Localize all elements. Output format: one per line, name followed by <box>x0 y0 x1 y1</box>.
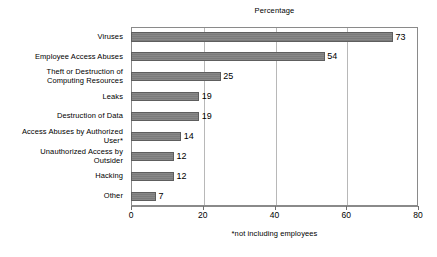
bar[interactable] <box>131 152 174 161</box>
bar-value-label: 14 <box>181 130 194 142</box>
category-label: Other <box>0 191 123 200</box>
bar[interactable] <box>131 92 199 101</box>
bar-row[interactable]: 19 <box>131 107 418 127</box>
category-label-line: Theft or Destruction of <box>47 67 124 76</box>
bar-value-label: 19 <box>199 90 212 102</box>
bar-value-label: 19 <box>199 110 212 122</box>
chart-title: Percentage <box>131 6 418 15</box>
bar-chart-figure: Percentage 73542519191412127 VirusesEmpl… <box>0 0 437 257</box>
category-label: Destruction of Data <box>0 111 123 120</box>
category-label-line: Leaks <box>102 92 123 101</box>
bar-row[interactable]: 7 <box>131 186 418 206</box>
category-label: Leaks <box>0 92 123 101</box>
category-label-line: Viruses <box>97 32 123 41</box>
category-label-line: Access Abuses by Authorized <box>22 127 123 136</box>
chart-footnote: *not including employees <box>131 229 418 238</box>
category-label-line: Computing Resources <box>47 76 123 85</box>
category-label: Theft or Destruction ofComputing Resourc… <box>0 67 123 85</box>
bar-row[interactable]: 54 <box>131 47 418 67</box>
x-tick-label: 20 <box>198 210 207 221</box>
category-label-line: Destruction of Data <box>57 111 123 120</box>
bar-row[interactable]: 25 <box>131 67 418 87</box>
bar-value-label: 54 <box>325 50 338 62</box>
bar-row[interactable]: 12 <box>131 146 418 166</box>
bar-value-label: 7 <box>156 190 164 202</box>
bar-value-label: 12 <box>174 170 187 182</box>
bar[interactable] <box>131 132 181 141</box>
bar-row[interactable]: 12 <box>131 166 418 186</box>
bar-value-label: 73 <box>393 31 406 43</box>
x-tick-label: 60 <box>342 210 351 221</box>
x-tick-label: 0 <box>129 210 134 221</box>
bar-value-label: 25 <box>221 70 234 82</box>
x-tick-label: 40 <box>270 210 279 221</box>
bar[interactable] <box>131 172 174 181</box>
category-label-line: Other <box>104 191 123 200</box>
x-axis-tick-labels: 020406080 <box>131 210 418 222</box>
bar[interactable] <box>131 192 156 201</box>
bar[interactable] <box>131 52 325 61</box>
bar-row[interactable]: 73 <box>131 27 418 47</box>
bar[interactable] <box>131 32 393 41</box>
bar[interactable] <box>131 112 199 121</box>
category-label: Access Abuses by AuthorizedUser* <box>0 127 123 145</box>
category-label-line: Hacking <box>95 171 123 180</box>
bar-value-label: 12 <box>174 150 187 162</box>
bars-layer: 73542519191412127 <box>131 27 418 206</box>
bar-row[interactable]: 14 <box>131 126 418 146</box>
category-label: Hacking <box>0 171 123 180</box>
category-label: Employee Access Abuses <box>0 52 123 61</box>
bar-row[interactable]: 19 <box>131 87 418 107</box>
category-label-line: User* <box>104 136 123 145</box>
category-label-line: Employee Access Abuses <box>35 52 123 61</box>
bar[interactable] <box>131 72 221 81</box>
category-label-line: Unauthorized Access by <box>40 147 123 156</box>
x-tick-label: 80 <box>413 210 422 221</box>
category-label: Viruses <box>0 32 123 41</box>
category-label: Unauthorized Access byOutsider <box>0 147 123 165</box>
category-axis-labels: VirusesEmployee Access AbusesTheft or De… <box>0 27 127 206</box>
category-label-line: Outsider <box>94 156 123 165</box>
